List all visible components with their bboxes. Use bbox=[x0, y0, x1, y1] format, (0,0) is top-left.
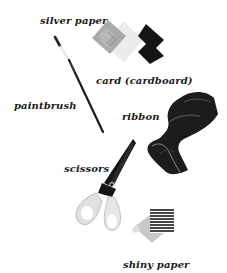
label-shiny-paper: shiny paper bbox=[123, 259, 189, 270]
ribbon-image bbox=[140, 88, 220, 178]
paintbrush-image bbox=[50, 32, 110, 137]
label-card-cardboard: card (cardboard) bbox=[96, 75, 193, 86]
scissors-image bbox=[72, 137, 138, 235]
label-paintbrush: paintbrush bbox=[14, 100, 77, 111]
shiny-paper-image bbox=[130, 207, 178, 247]
